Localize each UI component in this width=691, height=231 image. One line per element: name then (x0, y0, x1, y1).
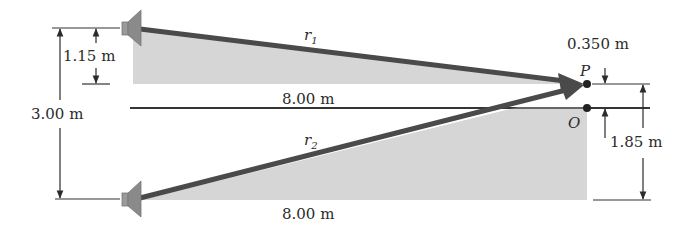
point-o-label: O (568, 114, 580, 132)
bottom-speaker-icon (122, 181, 141, 217)
point-p-label: P (579, 62, 591, 80)
r1-label: r1 (304, 26, 318, 46)
top-speaker-icon (122, 10, 141, 46)
bottom-offset-label: 1.85 m (610, 133, 662, 151)
center-distance-label: 8.00 m (282, 90, 334, 108)
separation-label: 3.00 m (31, 105, 83, 123)
top-offset-label: 1.15 m (63, 47, 115, 65)
point-p (583, 80, 591, 88)
bottom-distance-label: 8.00 m (282, 205, 334, 223)
p-offset-label: 0.350 m (567, 35, 629, 53)
point-o (583, 104, 591, 112)
speaker-interference-diagram: r1 r2 8.00 m 8.00 m 3.00 m 1.15 m 0.350 … (0, 0, 691, 231)
